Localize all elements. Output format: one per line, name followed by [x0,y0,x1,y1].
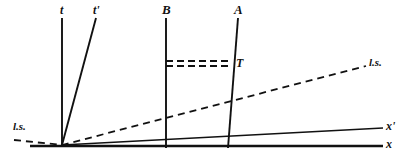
label-b: B [162,3,171,16]
label-ls-left: l.s. [13,121,26,132]
label-t-event: T [236,57,243,69]
line-a [228,18,238,148]
label-x-prime: x' [386,120,395,132]
line-group [14,18,383,148]
label-x: x [386,138,392,150]
label-t: t [60,4,63,16]
figure-canvas [0,0,404,161]
label-t-prime: t' [93,4,100,16]
label-ls-right: l.s. [369,57,382,68]
geometry-figure: t t' B A T l.s. l.s. x' x [0,0,404,161]
line-of-simultaneity-dashed [14,66,366,145]
label-a: A [234,3,243,16]
line-t-prime [62,18,96,145]
axis-x-prime [62,128,383,145]
